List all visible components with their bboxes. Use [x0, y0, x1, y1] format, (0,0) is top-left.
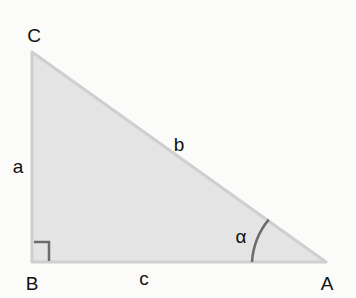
triangle-diagram: C B A a b c α [0, 0, 356, 298]
vertex-label-a: A [321, 274, 334, 293]
vertex-label-b: B [26, 274, 39, 293]
side-label-c: c [139, 269, 149, 288]
vertex-label-c: C [27, 26, 41, 45]
side-label-a: a [13, 157, 24, 176]
right-triangle-shape [32, 52, 326, 262]
side-label-b: b [174, 135, 185, 154]
angle-label-alpha: α [236, 227, 247, 246]
